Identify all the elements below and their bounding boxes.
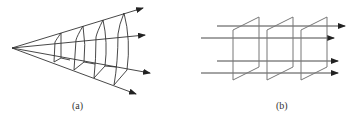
wavefront-4 xyxy=(114,13,128,85)
panel-a-label: (a) xyxy=(72,100,83,111)
ray-3 xyxy=(12,48,150,73)
wavefront-3 xyxy=(94,20,116,78)
wavefront-2 xyxy=(74,26,95,70)
panel-b-label: (b) xyxy=(276,100,288,111)
diagram-canvas xyxy=(0,0,353,122)
panel-a-spherical-waves xyxy=(12,8,150,94)
panel-b-plane-waves xyxy=(201,17,345,80)
